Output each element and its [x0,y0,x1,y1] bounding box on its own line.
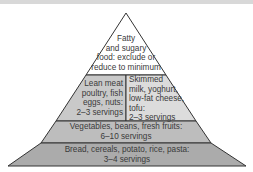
label-line: reduce to minimum [86,63,166,73]
label-line: milk, yoghurt, [129,85,199,95]
label-line: Vegetables, beans, fresh fruits: [41,122,211,132]
label-line: tofu: [129,104,199,114]
label-line: 6–10 servings [41,132,211,142]
label-line: Lean meat [66,79,123,89]
label-line: Bread, cereals, potato, rice, pasta: [20,145,234,155]
label-vegetables: Vegetables, beans, fresh fruits: 6–10 se… [41,122,211,141]
label-line: and sugary [86,44,166,54]
label-line: Skimmed [129,75,199,85]
label-grains: Bread, cereals, potato, rice, pasta: 3–4… [20,145,234,164]
label-line: eggs, nuts: [66,98,123,108]
label-line: 2–3 servings [66,108,123,118]
label-line: 3–4 servings [20,155,234,165]
label-dairy: Skimmed milk, yoghurt, low-fat cheese, t… [129,75,199,123]
label-line: low-fat cheese, [129,94,199,104]
label-line: food: exclude or [86,53,166,63]
label-line: poultry, fish [66,89,123,99]
label-line: Fatty [86,34,166,44]
label-fats: Fatty and sugary food: exclude or reduce… [86,34,166,72]
label-protein: Lean meat poultry, fish eggs, nuts: 2–3 … [66,79,123,117]
